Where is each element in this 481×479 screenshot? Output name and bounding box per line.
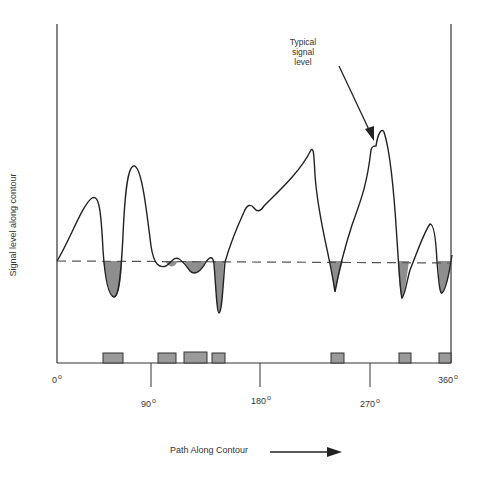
outage-bars [103,352,451,363]
tick-label-90: 90o [141,397,156,409]
signal-contour-diagram [0,0,481,479]
annotation-line-1: Typical [278,37,328,47]
tick-value: 270 [360,399,375,409]
degree-symbol: o [376,397,380,404]
degree-symbol: o [58,373,62,380]
y-axis-label: Signal level along contour [8,173,18,276]
degree-symbol: o [267,394,271,401]
degree-symbol: o [152,397,156,404]
x-axis-label: Path Along Contour [170,445,248,455]
tick-label-0: 0o [52,373,62,385]
tick-value: 0 [52,375,57,385]
annotation-arrow-shaft [339,66,371,134]
annotation-label: Typical signal level [278,37,328,67]
direction-arrowhead [327,447,342,457]
annotation-line-3: level [278,57,328,67]
tick-label-270: 270o [360,397,380,409]
tick-label-360: 360o [438,373,458,385]
tick-value: 90 [141,399,151,409]
tick-value: 180 [251,396,266,406]
tick-value: 360 [438,375,453,385]
degree-symbol: o [454,373,458,380]
annotation-line-2: signal [278,47,328,57]
tick-label-180: 180o [251,394,271,406]
annotation-arrowhead [365,126,374,141]
